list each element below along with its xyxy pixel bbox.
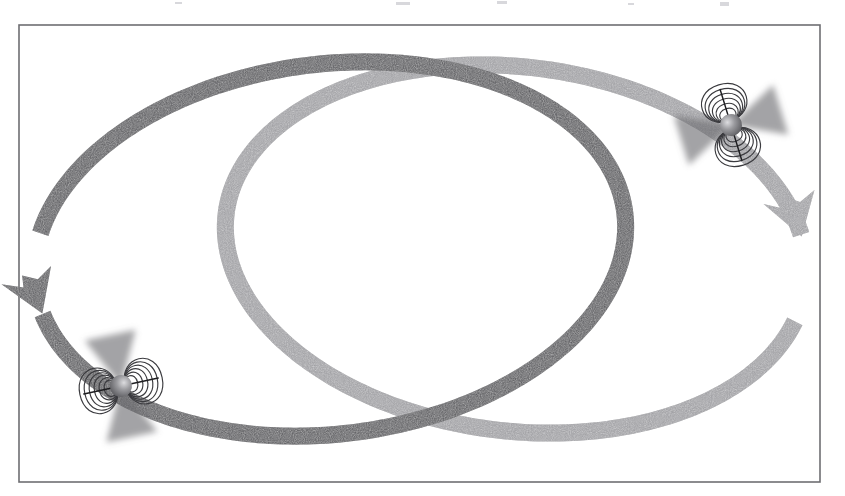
scan-speck xyxy=(628,3,634,5)
scan-speck xyxy=(175,2,182,4)
scan-speck xyxy=(720,2,729,6)
scan-speck xyxy=(497,1,507,4)
scan-speck xyxy=(396,2,410,5)
binary-pulsar-diagram xyxy=(0,0,845,496)
figure-root: Binary pulsar system: two neutron stars … xyxy=(0,0,845,496)
